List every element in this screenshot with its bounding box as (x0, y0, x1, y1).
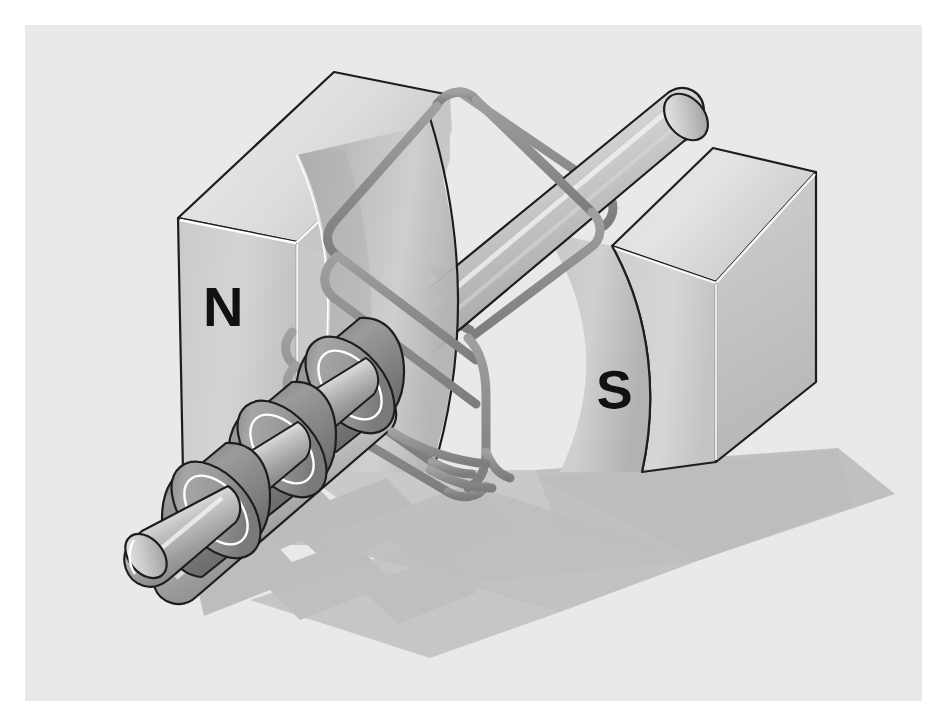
illustration-artwork: S (0, 0, 950, 727)
south-pole-label: S (595, 359, 633, 420)
north-pole-label: N (203, 275, 243, 338)
figure-stage: S (0, 0, 950, 727)
